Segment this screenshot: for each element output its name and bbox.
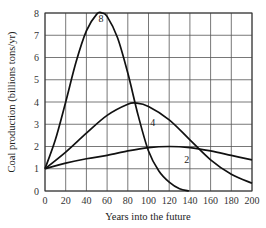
y-tick-label: 1 [34, 163, 39, 174]
x-tick-label: 20 [61, 195, 71, 206]
curve-label-4: 4 [150, 117, 155, 128]
y-tick-label: 3 [34, 119, 39, 130]
x-tick-label: 200 [245, 195, 260, 206]
x-tick-label: 140 [182, 195, 197, 206]
y-tick-label: 2 [34, 141, 39, 152]
x-tick-label: 60 [102, 195, 112, 206]
y-tick-label: 8 [34, 8, 39, 19]
x-tick-label: 40 [81, 195, 91, 206]
y-tick-label: 6 [34, 52, 39, 63]
coal-production-chart: 842 020406080100120140160180200012345678… [0, 0, 266, 228]
y-tick-label: 4 [34, 97, 39, 108]
y-axis-label: Coal production (billions tons/yr) [6, 31, 18, 172]
x-tick-label: 0 [43, 195, 48, 206]
tick-labels: 020406080100120140160180200012345678 [34, 8, 260, 207]
curve-label-8: 8 [98, 13, 103, 24]
y-tick-label: 5 [34, 74, 39, 85]
x-axis-label: Years into the future [105, 211, 191, 222]
x-tick-label: 180 [224, 195, 239, 206]
x-tick-label: 160 [203, 195, 218, 206]
x-tick-label: 80 [123, 195, 133, 206]
curve-label-2: 2 [184, 154, 189, 165]
y-tick-label: 7 [34, 30, 39, 41]
x-tick-label: 120 [162, 195, 177, 206]
x-tick-label: 100 [141, 195, 156, 206]
grid [45, 13, 252, 191]
y-tick-label: 0 [34, 186, 39, 197]
